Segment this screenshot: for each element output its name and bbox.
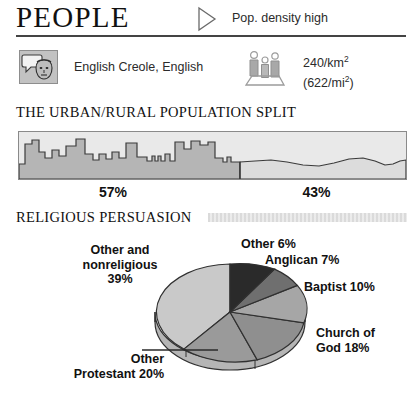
pie-label-line-2: nonreligious	[83, 258, 158, 272]
pie-label-line-1: Other	[131, 352, 164, 366]
page-title: PEOPLE	[16, 1, 130, 34]
pie-label-line-1: Church of	[316, 326, 375, 340]
triangle-right-icon	[196, 6, 218, 32]
page-header: PEOPLE Pop. density high	[0, 0, 420, 40]
facts-row: English Creole, English 240/km2 (622/mi2…	[0, 44, 420, 96]
density-metric: 240/km2	[303, 51, 354, 71]
pie-label-line-3: 39%	[107, 272, 132, 286]
header-divider	[16, 35, 406, 37]
pie-label-other-nonreligious: Other and nonreligious 39%	[56, 243, 184, 287]
pie-label-line-2: God 18%	[316, 341, 375, 356]
pie-label-line-1: Other and	[90, 243, 149, 257]
decorative-bar	[208, 213, 407, 222]
speech-bubble-face-icon	[19, 50, 58, 84]
people-group-icon	[243, 49, 287, 87]
pie-label-church-of-god: Church of God 18%	[316, 326, 375, 356]
pie-label-other-protestant: Other Protestant 20%	[24, 352, 164, 381]
languages-label: English Creole, English	[74, 60, 203, 74]
urban-rural-heading: THE URBAN/RURAL POPULATION SPLIT	[16, 104, 296, 121]
urban-percentage-label: 57%	[0, 184, 226, 200]
pie-label-other: Other 6%	[241, 237, 296, 252]
religion-heading: RELIGIOUS PERSUASION	[16, 209, 192, 226]
density-imperial: (622/mi2)	[303, 71, 354, 91]
pie-label-baptist: Baptist 10%	[304, 280, 375, 295]
density-note-label: Pop. density high	[232, 11, 328, 25]
population-density-values: 240/km2 (622/mi2)	[303, 51, 354, 91]
urban-rural-split-chart	[18, 131, 407, 180]
pie-label-line-2: Protestant 20%	[24, 367, 164, 382]
rural-percentage-label: 43%	[226, 184, 407, 200]
pie-label-anglican: Anglican 7%	[265, 253, 339, 268]
